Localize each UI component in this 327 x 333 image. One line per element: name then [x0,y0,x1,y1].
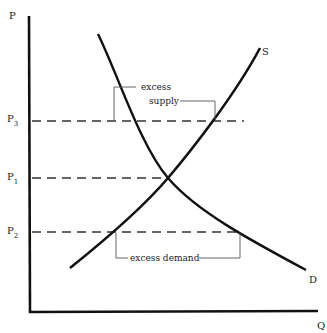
excess-supply-label-line2: supply [149,96,180,106]
excess-supply-label-line1: excess [141,82,171,92]
demand-curve [98,34,306,270]
y-axis [29,16,30,313]
demand-label: D [309,274,317,285]
supply-label: S [262,46,269,57]
price-label-p2: P2 [7,225,18,240]
y-axis-label: P [9,10,16,21]
supply-curve [70,48,260,268]
x-axis-label: Q [317,320,325,331]
supply-demand-diagram: P Q P3 P1 P2 S D excess supply excess de… [0,0,327,333]
price-label-p3: P3 [7,113,18,128]
price-label-p1: P1 [7,171,18,186]
axes [29,16,318,313]
excess-demand-label: excess demand [130,253,200,263]
x-axis [29,311,318,312]
